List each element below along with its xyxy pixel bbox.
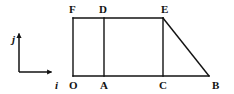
segment-EB (163, 18, 209, 76)
j-axis-label: j (12, 34, 15, 45)
polygon-outline (73, 18, 209, 76)
geometry-figure: O A C B F D E j i (0, 0, 234, 94)
vertex-label-B: B (212, 80, 219, 91)
vertex-label-F: F (69, 4, 76, 15)
i-axis-label: i (55, 80, 58, 91)
vertex-label-A: A (100, 80, 108, 91)
vertex-label-E: E (161, 4, 168, 15)
figure-canvas (0, 0, 234, 94)
vertex-label-D: D (99, 4, 107, 15)
vertex-label-O: O (69, 80, 78, 91)
vertex-label-C: C (159, 80, 167, 91)
coordinate-axes (19, 34, 52, 73)
